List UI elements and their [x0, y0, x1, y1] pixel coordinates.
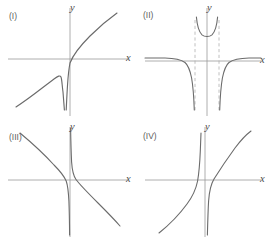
x-axis-label-2: x	[260, 54, 265, 65]
x-axis-label-4: x	[260, 173, 265, 184]
y-axis-label-2: y	[207, 2, 212, 13]
curve-3-right-branch	[71, 128, 120, 226]
curve-2-far-right-branch	[220, 58, 261, 110]
panel-label-1: (I)	[9, 11, 17, 21]
plot-panel-2: (II) y x	[137, 0, 273, 121]
figure-grid: (I) y x (II) y x (III) y x	[0, 0, 273, 242]
curve-2-far-left-branch	[145, 58, 194, 110]
curve-1-right-branch	[66, 13, 117, 110]
panel-label-3: (III)	[9, 132, 22, 142]
y-axis-label-4: y	[205, 121, 210, 132]
plot-panel-4: (IV) y x	[137, 121, 273, 242]
curve-4-right-branch	[207, 131, 251, 235]
plot-svg-4	[137, 121, 273, 242]
plot-panel-1: (I) y x	[0, 0, 137, 121]
y-axis-label-3: y	[70, 121, 75, 132]
curve-3-left-branch	[20, 133, 70, 235]
plot-panel-3: (III) y x	[0, 121, 137, 242]
curve-4-left-branch	[159, 133, 201, 233]
panel-label-4: (IV)	[143, 131, 157, 141]
panel-label-2: (II)	[143, 10, 153, 20]
plot-svg-2	[137, 0, 273, 121]
plot-svg-1	[0, 0, 137, 121]
y-axis-label-1: y	[70, 2, 75, 13]
curve-1-left-branch	[16, 76, 64, 110]
x-axis-label-1: x	[126, 52, 131, 63]
x-axis-label-3: x	[126, 173, 131, 184]
